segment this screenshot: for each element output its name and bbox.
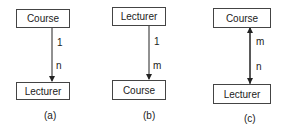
entity-course-a: Course [16, 9, 70, 28]
cardinality-bottom-c: n [256, 61, 262, 72]
entity-lecturer-a: Lecturer [16, 82, 70, 100]
caption-b: (b) [143, 110, 155, 121]
entity-course-b: Course [112, 80, 166, 100]
cardinality-bottom-a: n [56, 60, 62, 71]
cardinality-bottom-b: m [153, 60, 161, 71]
entity-course-c: Course [213, 8, 271, 28]
cardinality-top-b: 1 [154, 36, 160, 47]
caption-a: (a) [44, 110, 56, 121]
cardinality-top-c: m [256, 36, 264, 47]
cardinality-top-a: 1 [57, 37, 63, 48]
caption-c: (c) [244, 113, 256, 124]
entity-lecturer-c: Lecturer [213, 84, 271, 104]
entity-lecturer-b: Lecturer [112, 7, 166, 26]
